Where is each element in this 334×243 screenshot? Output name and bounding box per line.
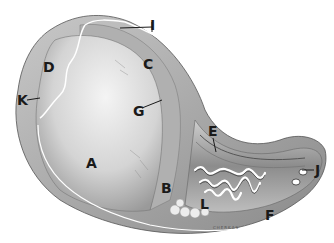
label-b: B [161,181,172,195]
artist-signature: CHERKAS [213,225,239,230]
label-a: A [86,156,97,170]
anatomy-drawing [0,0,334,243]
label-j: J [315,163,320,177]
label-k: K [17,93,28,107]
label-g: G [133,104,145,118]
label-e: E [208,124,218,138]
label-d: D [43,60,55,74]
anatomical-figure: A B C D E F G I J K L CHERKAS [0,0,334,243]
label-i: I [150,18,155,32]
label-c: C [143,57,153,71]
label-f: F [265,208,275,222]
label-l: L [200,197,209,211]
